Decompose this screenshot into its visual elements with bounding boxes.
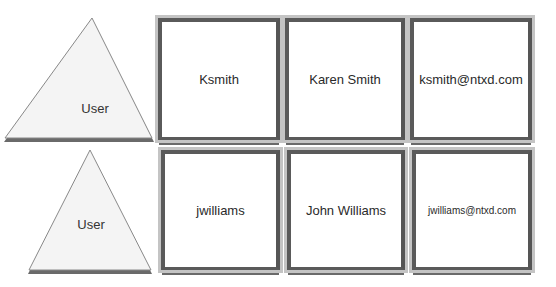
user-triangle-2: User: [2, 147, 152, 277]
cell-email: ksmith@ntxd.com: [410, 18, 532, 140]
cell-text: John Williams: [306, 203, 386, 218]
cell-username: jwilliams: [161, 150, 280, 270]
user-triangle-1: User: [2, 15, 152, 145]
cell-full-name: Karen Smith: [285, 18, 405, 140]
cell-text: jwilliams: [196, 203, 244, 218]
cell-full-name: John Williams: [287, 150, 405, 270]
cell-text: Karen Smith: [309, 72, 381, 87]
cell-username: Ksmith: [158, 18, 280, 140]
cell-text: Ksmith: [199, 72, 239, 87]
cell-text: ksmith@ntxd.com: [419, 72, 523, 87]
entity-label: User: [16, 217, 166, 232]
entity-label: User: [20, 101, 170, 116]
cell-email: jwilliams@ntxd.com: [412, 150, 532, 270]
triangle-shape-icon: [2, 147, 154, 279]
cell-text: jwilliams@ntxd.com: [428, 205, 516, 216]
triangle-shape-icon: [2, 15, 154, 147]
